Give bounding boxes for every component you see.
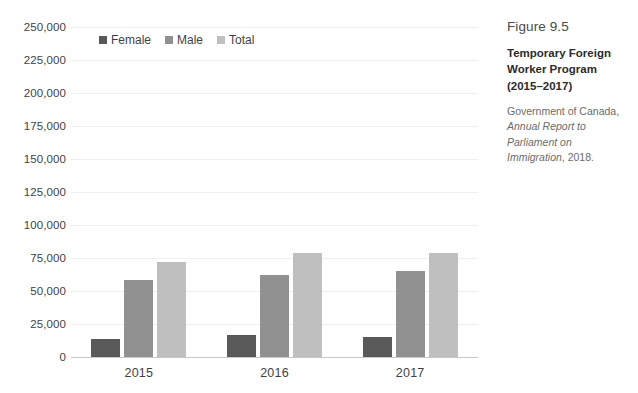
legend-item-male: Male xyxy=(165,33,203,47)
y-axis-tick-label: 25,000 xyxy=(2,318,66,330)
y-axis-tick-label: 200,000 xyxy=(2,87,66,99)
y-axis-tick-label: 100,000 xyxy=(2,219,66,231)
bar-male-2015 xyxy=(124,280,153,357)
legend-item-total: Total xyxy=(217,33,254,47)
figure-caption: Figure 9.5 Temporary Foreign Worker Prog… xyxy=(507,18,632,166)
bar-chart: 250,000225,000200,000175,000150,000125,0… xyxy=(0,0,492,393)
legend-label: Total xyxy=(229,33,254,47)
y-axis-tick-label: 125,000 xyxy=(2,186,66,198)
axis-baseline xyxy=(71,357,478,358)
x-axis-tick-label: 2017 xyxy=(396,366,425,380)
x-axis-tick-label: 2015 xyxy=(125,366,154,380)
bar-groups xyxy=(71,27,478,357)
bar-total-2015 xyxy=(157,262,186,357)
y-axis-tick-label: 0 xyxy=(2,351,66,363)
plot-area xyxy=(71,27,478,357)
bar-total-2016 xyxy=(293,253,322,357)
y-axis-tick-label: 150,000 xyxy=(2,153,66,165)
bar-group xyxy=(71,27,207,357)
legend-swatch-female-icon xyxy=(99,36,107,44)
caption-source: Government of Canada, Annual Report to P… xyxy=(507,104,632,166)
caption-source-suffix: , 2018. xyxy=(562,151,594,163)
legend-item-female: Female xyxy=(99,33,151,47)
y-axis-tick-label: 250,000 xyxy=(2,21,66,33)
bar-group xyxy=(207,27,343,357)
y-axis-tick-label: 175,000 xyxy=(2,120,66,132)
bar-female-2017 xyxy=(363,337,392,357)
bar-male-2017 xyxy=(396,271,425,357)
legend-swatch-male-icon xyxy=(165,36,173,44)
y-axis-tick-label: 225,000 xyxy=(2,54,66,66)
bar-male-2016 xyxy=(260,275,289,357)
caption-title: Temporary Foreign Worker Program (2015–2… xyxy=(507,45,632,95)
legend-label: Male xyxy=(177,33,203,47)
bar-female-2016 xyxy=(227,335,256,357)
figure-page: 250,000225,000200,000175,000150,000125,0… xyxy=(0,0,638,393)
bar-total-2017 xyxy=(429,253,458,357)
bar-female-2015 xyxy=(91,339,120,357)
y-axis-tick-label: 75,000 xyxy=(2,252,66,264)
legend-label: Female xyxy=(111,33,151,47)
y-axis-tick-labels: 250,000225,000200,000175,000150,000125,0… xyxy=(0,0,66,393)
chart-legend: FemaleMaleTotal xyxy=(99,33,254,47)
legend-swatch-total-icon xyxy=(217,36,225,44)
bar-group xyxy=(342,27,478,357)
caption-source-prefix: Government of Canada, xyxy=(507,105,619,117)
x-axis-tick-label: 2016 xyxy=(260,366,289,380)
y-axis-tick-label: 50,000 xyxy=(2,285,66,297)
caption-figure-number: Figure 9.5 xyxy=(507,18,632,36)
